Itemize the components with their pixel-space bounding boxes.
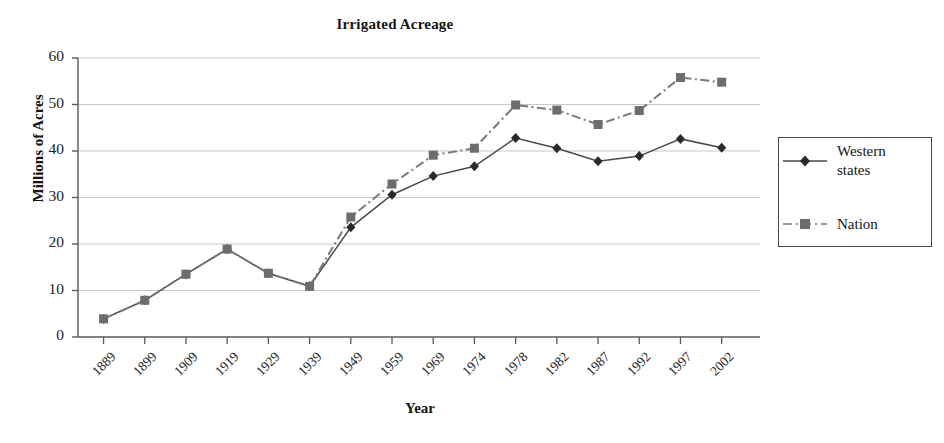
- data-point-marker: [346, 213, 355, 222]
- data-point-marker: [388, 180, 397, 189]
- data-point-marker: [676, 134, 685, 144]
- legend-label-western-states: Western states: [831, 142, 886, 180]
- data-point-marker: [140, 296, 149, 305]
- data-point-marker: [635, 106, 644, 115]
- y-tick-label: 40: [30, 140, 64, 158]
- y-tick-label: 60: [30, 47, 64, 65]
- data-point-marker: [593, 156, 602, 166]
- legend-label-nation: Nation: [831, 215, 878, 234]
- legend-marker-square-icon: [779, 213, 831, 235]
- data-point-marker: [99, 314, 108, 323]
- data-point-marker: [264, 269, 273, 278]
- y-tick-label: 0: [30, 326, 64, 344]
- data-point-marker: [387, 190, 396, 200]
- chart-legend: Western states Nation: [778, 137, 932, 247]
- data-point-marker: [552, 106, 561, 115]
- y-tick-label: 20: [30, 233, 64, 251]
- data-point-marker: [181, 270, 190, 279]
- data-point-marker: [594, 120, 603, 129]
- legend-label-line2: states: [831, 161, 886, 180]
- data-point-marker: [676, 73, 685, 82]
- series-line-nation: [104, 78, 722, 319]
- series-line-western-states: [104, 138, 722, 319]
- y-tick-label: 10: [30, 280, 64, 298]
- data-point-marker: [470, 144, 479, 153]
- legend-marker-diamond-icon: [779, 150, 831, 172]
- data-point-marker: [470, 161, 479, 171]
- data-point-marker: [552, 143, 561, 153]
- data-point-marker: [511, 100, 520, 109]
- data-point-marker: [429, 171, 438, 181]
- legend-item-nation: Nation: [779, 213, 931, 235]
- legend-label-line1: Western: [831, 142, 886, 161]
- data-point-marker: [305, 282, 314, 291]
- data-point-marker: [511, 133, 520, 143]
- y-tick-label: 50: [30, 94, 64, 112]
- y-tick-label: 30: [30, 187, 64, 205]
- data-point-marker: [429, 151, 438, 160]
- data-point-marker: [635, 151, 644, 161]
- legend-item-western-states: Western states: [779, 150, 931, 172]
- chart-figure: Irrigated Acreage Millions of Acres Year…: [0, 0, 944, 443]
- data-point-marker: [717, 78, 726, 87]
- data-point-marker: [223, 245, 232, 254]
